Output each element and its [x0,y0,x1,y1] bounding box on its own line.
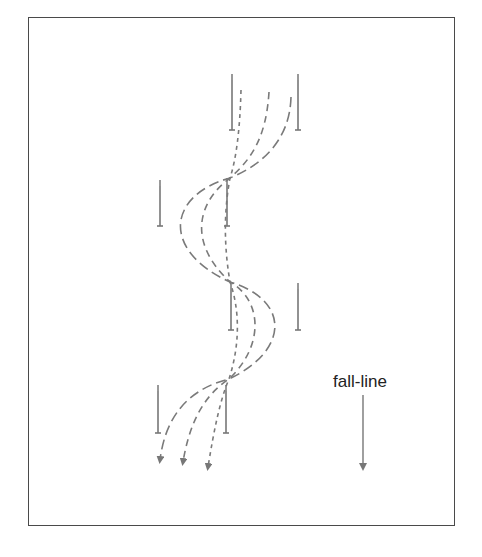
pole-icon [157,180,163,226]
short-dash-line [208,90,241,467]
pole-icon [229,74,235,130]
fall-line-arrow [359,395,367,471]
fall-line-label: fall-line [333,372,387,392]
pole-icon [295,74,301,130]
ski-turn-diagram [0,0,482,557]
pole-icon [155,385,161,433]
slalom-poles [155,74,301,433]
pole-icon [295,283,301,330]
